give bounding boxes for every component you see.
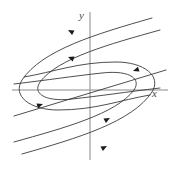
trajectory-left-parabola-inner — [38, 30, 160, 100]
arrow-lower-right-outer-icon — [100, 144, 108, 151]
phase-portrait-figure: y x — [0, 0, 174, 172]
arrow-right-separatrix-icon — [132, 67, 139, 74]
y-axis-label: y — [78, 9, 84, 21]
arrow-upper-left-outer-icon — [67, 28, 75, 35]
trajectory-right-parabola-inner — [14, 72, 136, 142]
arrow-lower-right-inner-icon — [103, 116, 111, 123]
phase-portrait-canvas: y x — [0, 0, 174, 172]
x-axis-label: x — [151, 87, 157, 99]
flow-arrows-group — [36, 28, 139, 151]
